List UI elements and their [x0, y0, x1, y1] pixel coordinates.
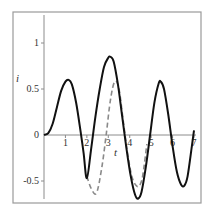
- solid-curve: [44, 56, 194, 198]
- chart: 1 0.5 0 -0.5 1234567 i t: [0, 0, 207, 213]
- y-axis-label: i: [16, 72, 19, 84]
- y-tick-0.5: 0.5: [27, 83, 40, 94]
- y-tick-0: 0: [34, 129, 39, 140]
- y-ticks: 1 0.5 0 -0.5: [23, 37, 44, 186]
- x-tick-3: 3: [106, 137, 111, 148]
- y-tick-1: 1: [34, 37, 39, 48]
- x-tick-2: 2: [84, 137, 89, 148]
- x-tick-4: 4: [127, 137, 132, 148]
- x-tick-1: 1: [63, 137, 68, 148]
- x-axis-label: t: [114, 146, 118, 158]
- dashed-curve: [87, 81, 147, 194]
- plot-frame: [13, 12, 201, 203]
- y-tick-neg-0.5: -0.5: [23, 175, 39, 186]
